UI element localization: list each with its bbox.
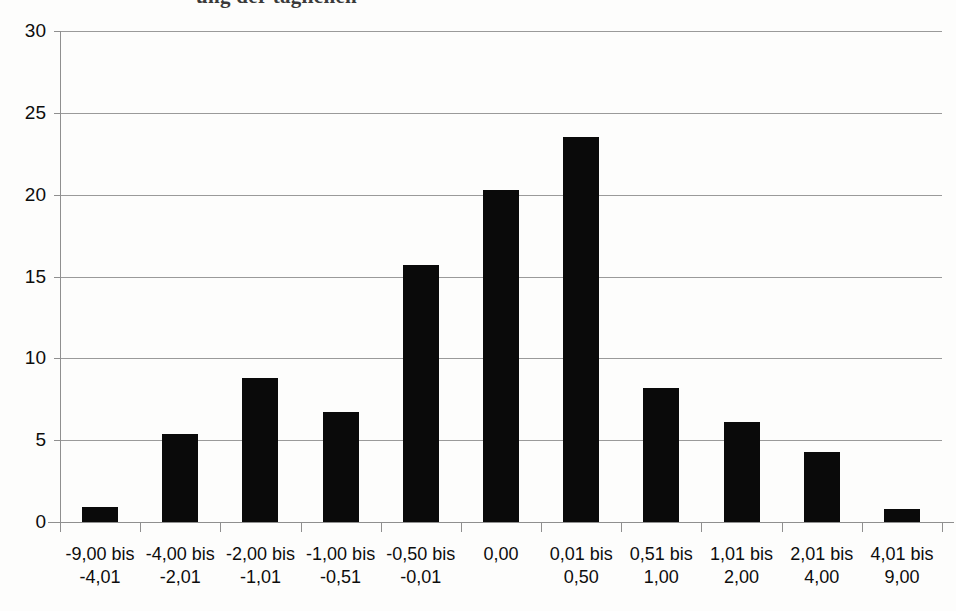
x-axis-label: -9,00 bis-4,01 [54,543,146,589]
bars-group [60,31,942,522]
y-axis-label-10: 10 [2,348,46,367]
x-axis-label-line1: 1,01 bis [695,543,787,566]
x-axis-label-line2: 4,00 [776,566,868,589]
x-axis-label-line2: -4,01 [54,566,146,589]
y-axis-label-5: 5 [2,430,46,449]
bar [82,507,118,522]
x-axis-label-line1: 0,00 [455,543,547,566]
x-tick-mark-6 [541,523,542,532]
x-axis-label: 0,00 [455,543,547,566]
x-axis-label: -0,50 bis-0,01 [375,543,467,589]
x-tick-mark-3 [301,523,302,532]
x-axis-label-line2: -1,01 [214,566,306,589]
bar [162,434,198,522]
x-axis-label: 0,01 bis0,50 [535,543,627,589]
bar [483,190,519,522]
x-tick-mark-8 [701,523,702,532]
y-axis-label-0: 0 [2,512,46,531]
y-axis-label-20: 20 [2,185,46,204]
bar [242,378,278,522]
x-axis-label: 0,51 bis1,00 [615,543,707,589]
x-axis-label-line2: -0,01 [375,566,467,589]
x-axis-label-line1: 2,01 bis [776,543,868,566]
x-axis-label-line1: -0,50 bis [375,543,467,566]
x-axis-line [48,522,954,523]
y-axis-label-25: 25 [2,103,46,122]
x-axis-label-line1: -2,00 bis [214,543,306,566]
bar [323,412,359,522]
x-tick-mark-7 [621,523,622,532]
x-axis-label: -1,00 bis-0,51 [295,543,387,589]
cutoff-caption-strip: ung der täglichen [0,0,956,9]
x-tick-mark-10 [862,523,863,532]
x-axis-label-line1: -9,00 bis [54,543,146,566]
x-axis-label-line2: 9,00 [856,566,948,589]
bar [563,137,599,522]
x-tick-mark-4 [381,523,382,532]
x-tick-mark-end [942,523,943,532]
x-axis-label: 1,01 bis2,00 [695,543,787,589]
x-axis-label-line1: -4,00 bis [134,543,226,566]
y-axis-label-15: 15 [2,267,46,286]
x-tick-mark-9 [782,523,783,532]
bar [403,265,439,522]
bar [724,422,760,522]
x-axis-label-line2: 0,50 [535,566,627,589]
x-axis-label-line1: 0,01 bis [535,543,627,566]
bar [643,388,679,522]
y-axis-label-30: 30 [2,21,46,40]
x-axis-labels-group: -9,00 bis-4,01-4,00 bis-2,01-2,00 bis-1,… [60,543,942,603]
x-axis-label: 4,01 bis9,00 [856,543,948,589]
bar [884,509,920,522]
x-axis-label: -4,00 bis-2,01 [134,543,226,589]
histogram-figure: ung der täglichen 051015202530 -9,00 bis… [0,0,956,611]
x-axis-label-line2: 1,00 [615,566,707,589]
x-tick-mark-0 [60,523,61,532]
x-tick-mark-5 [461,523,462,532]
bar [804,452,840,522]
x-axis-label-line1: 4,01 bis [856,543,948,566]
x-axis-label-line2: -0,51 [295,566,387,589]
x-axis-label: -2,00 bis-1,01 [214,543,306,589]
x-axis-label: 2,01 bis4,00 [776,543,868,589]
cutoff-caption-text: ung der täglichen [196,0,357,9]
x-axis-label-line2: 2,00 [695,566,787,589]
x-tick-mark-1 [140,523,141,532]
x-tick-mark-2 [220,523,221,532]
x-axis-label-line1: 0,51 bis [615,543,707,566]
x-axis-label-line2: -2,01 [134,566,226,589]
x-axis-label-line1: -1,00 bis [295,543,387,566]
